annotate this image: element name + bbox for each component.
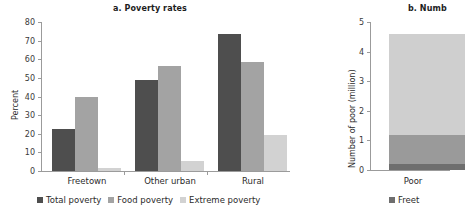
panel-b-ytick-0: 0 [352, 167, 364, 175]
panel-a-category-divider [124, 171, 125, 175]
bar-freetown-food-poverty [75, 97, 98, 172]
panel-a-ytick-60: 60 [14, 56, 35, 64]
panel-a-ytick-10: 10 [14, 149, 35, 157]
panel-b-ytick-1: 1 [352, 137, 364, 145]
legend-label-food-poverty: Food poverty [117, 196, 173, 205]
panel-b-ytick-3: 3 [352, 78, 364, 86]
legend-label-extreme-poverty: Extreme poverty [189, 196, 260, 205]
bar-freetown-total-poverty [52, 129, 75, 171]
panel-a-category-label-other-urban: Other urban [130, 177, 210, 186]
legend-label-freetown: Freet [398, 196, 419, 205]
legend-item-total-poverty: Total poverty [37, 196, 101, 205]
legend-swatch-food-poverty [108, 197, 114, 203]
panel-a-ytick-40: 40 [14, 94, 35, 102]
legend-item-extreme-poverty: Extreme poverty [180, 196, 260, 205]
legend-label-total-poverty: Total poverty [46, 196, 101, 205]
bar-other-urban-extreme-poverty [181, 161, 204, 171]
panel-b-title: b. Numb [408, 4, 447, 13]
panel-b-ytick-2: 2 [352, 108, 364, 116]
panel-a-category-divider [207, 171, 208, 175]
panel-b-number-of-poor: b. Numb Number of poor (million) 5 4 3 2… [300, 0, 450, 212]
bar-rural-extreme-poverty [264, 135, 287, 171]
panel-a-ytick-30: 30 [14, 112, 35, 120]
bar-other-urban-food-poverty [158, 66, 181, 171]
panel-a-ytick-80: 80 [14, 19, 35, 27]
stack-segment-rural [389, 34, 465, 135]
stack-segment-freetown [389, 164, 465, 170]
panel-b-legend: Freet [389, 196, 419, 205]
panel-b-ytick-4: 4 [352, 49, 364, 57]
legend-swatch-total-poverty [37, 197, 43, 203]
panel-a-ytick-50: 50 [14, 75, 35, 83]
panel-a-ytick-20: 20 [14, 131, 35, 139]
panel-b-plot-area [371, 22, 450, 170]
panel-a-poverty-rates: a. Poverty rates Percent 80 70 60 50 40 … [0, 0, 300, 212]
panel-b-x-axis-line [370, 170, 450, 171]
stack-segment-other-urban [389, 135, 465, 165]
panel-b-ytick-5: 5 [352, 19, 364, 27]
panel-a-ytick-0: 0 [14, 168, 35, 176]
panel-a-ytick-70: 70 [14, 38, 35, 46]
bar-freetown-extreme-poverty [98, 168, 121, 171]
bar-poor-stacked [389, 34, 465, 170]
panel-a-category-label-freetown: Freetown [47, 177, 127, 186]
legend-swatch-extreme-poverty [180, 197, 186, 203]
bar-other-urban-total-poverty [135, 80, 158, 171]
panel-b-category-label-poor: Poor [383, 177, 443, 186]
panel-a-title: a. Poverty rates [0, 4, 300, 13]
panel-a-legend: Total poverty Food poverty Extreme pover… [37, 196, 260, 205]
bar-rural-food-poverty [241, 62, 264, 171]
panel-a-x-axis-line [41, 171, 290, 172]
legend-item-freetown: Freet [389, 196, 419, 205]
legend-swatch-freetown [389, 197, 395, 203]
panel-a-plot-area [42, 22, 290, 171]
legend-item-food-poverty: Food poverty [108, 196, 173, 205]
bar-rural-total-poverty [218, 34, 241, 171]
panel-a-category-label-rural: Rural [213, 177, 293, 186]
